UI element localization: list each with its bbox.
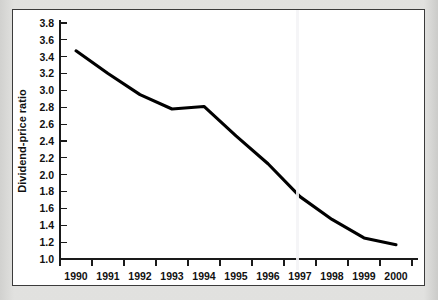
x-axis-tick-label: 2000 (384, 270, 408, 282)
x-axis-tick-label: 1997 (288, 270, 312, 282)
x-axis-tick-label: 1992 (128, 270, 152, 282)
data-series-line (76, 51, 396, 245)
x-axis-tick-label: 1998 (320, 270, 344, 282)
y-axis-tick-label: 1.6 (39, 202, 54, 214)
y-axis-tick-label: 2.2 (39, 152, 54, 164)
x-axis: 1990199119921993199419951996199719981999… (60, 259, 418, 282)
y-axis: 3.83.63.43.23.02.82.62.42.22.01.81.61.41… (39, 17, 67, 265)
y-axis-tick-label: 2.8 (39, 101, 54, 113)
x-axis-tick-label: 1990 (64, 270, 88, 282)
x-axis-tick-label: 1996 (256, 270, 280, 282)
series-dividend-price-ratio (76, 51, 396, 245)
x-axis-tick-label: 1993 (160, 270, 184, 282)
x-axis-tick-label: 1991 (96, 270, 120, 282)
y-axis-tick-label: 3.2 (39, 67, 54, 79)
chart-plot-area: 3.83.63.43.23.02.82.62.42.22.01.81.61.41… (12, 9, 425, 286)
chart-screenshot: 3.83.63.43.23.02.82.62.42.22.01.81.61.41… (0, 0, 438, 300)
y-axis-tick-label: 3.8 (39, 17, 54, 29)
y-axis-tick-label: 1.2 (39, 236, 54, 248)
y-axis-title-text: Dividend-price ratio (16, 89, 28, 193)
y-axis-tick-label: 1.4 (39, 219, 54, 231)
x-axis-tick-label: 1999 (352, 270, 376, 282)
y-axis-tick-label: 1.8 (39, 185, 54, 197)
x-axis-tick-label: 1994 (192, 270, 216, 282)
y-axis-tick-label: 2.0 (39, 169, 54, 181)
x-axis-tick-label: 1995 (224, 270, 248, 282)
y-axis-tick-label: 3.6 (39, 34, 54, 46)
dividend-price-ratio-line-chart: 3.83.63.43.23.02.82.62.42.22.01.81.61.41… (12, 9, 425, 286)
y-axis-tick-label: 1.0 (39, 253, 54, 265)
y-axis-tick-label: 2.6 (39, 118, 54, 130)
y-axis-tick-label: 3.4 (39, 51, 54, 63)
y-axis-tick-label: 3.0 (39, 84, 54, 96)
y-axis-tick-label: 2.4 (39, 135, 54, 147)
y-axis-title: Dividend-price ratio (16, 89, 28, 193)
